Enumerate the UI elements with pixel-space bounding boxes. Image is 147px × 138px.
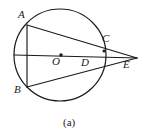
vertex-label-b: B [14,84,21,95]
vertex-label-c: C [102,33,109,44]
vertex-label-e: E [123,59,130,70]
geometry-figure: A B C D E O (a) [0,0,147,138]
point-c-dot [103,50,106,53]
figure-caption: (a) [63,117,75,128]
secant-a-to-e [27,25,137,58]
vertex-label-d: D [81,57,89,68]
diameter-line-to-e [14,55,137,58]
vertex-label-a: A [18,9,25,20]
vertex-label-o: O [52,56,60,67]
